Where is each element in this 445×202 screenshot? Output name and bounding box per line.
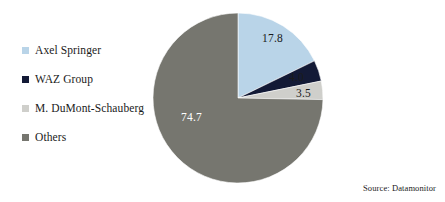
legend-item-axel-springer[interactable]: Axel Springer (22, 36, 172, 65)
legend-swatch-icon (22, 47, 29, 54)
legend-swatch-icon (22, 105, 29, 112)
legend-item-label: M. DuMont-Schauberg (35, 103, 144, 115)
pie-value-label-waz-group: 4.0 (289, 72, 304, 84)
pie-value-label-axel-springer: 17.8 (262, 33, 283, 45)
pie-chart-figure: Axel Springer WAZ Group M. DuMont-Schaub… (0, 0, 445, 202)
legend-item-waz-group[interactable]: WAZ Group (22, 65, 172, 94)
legend-item-others[interactable]: Others (22, 123, 172, 152)
legend-swatch-icon (22, 76, 29, 83)
source-note: Source: Datamonitor (363, 183, 436, 193)
legend-item-label: WAZ Group (35, 74, 93, 86)
pie-value-label-dumont-schauberg: 3.5 (296, 88, 311, 100)
pie-value-label-others: 74.7 (181, 112, 202, 124)
legend-swatch-icon (22, 134, 29, 141)
legend-item-dumont-schauberg[interactable]: M. DuMont-Schauberg (22, 94, 172, 123)
legend-item-label: Others (35, 132, 66, 144)
legend-item-label: Axel Springer (35, 45, 101, 57)
chart-legend: Axel Springer WAZ Group M. DuMont-Schaub… (22, 36, 172, 152)
